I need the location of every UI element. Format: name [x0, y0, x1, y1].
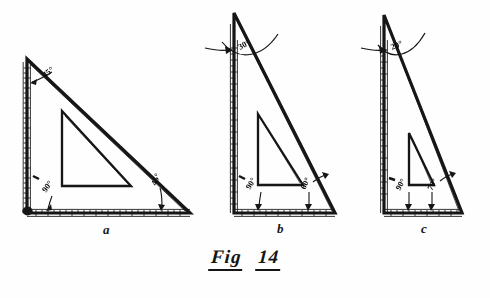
triangle-b-angle-label-2: 60° [298, 176, 312, 191]
triangle-a-corner-mark [22, 207, 32, 216]
panel-c: 20° 90° 70° [361, 15, 462, 216]
triangle-c-bevel-inner [412, 138, 431, 183]
triangle-a-bevel-hypotenuse [31, 65, 185, 211]
panel-a: 45° 90° 45° [22, 59, 190, 216]
triangle-b-tick-left-mid [239, 176, 245, 179]
triangle-b-arrow-30 [225, 46, 233, 54]
triangle-c-arrow-90 [405, 204, 412, 211]
triangle-a-angle-label-1: 90° [39, 179, 54, 194]
triangle-c-angle-label-2: 70° [425, 177, 439, 192]
triangle-a-outer [27, 59, 190, 213]
triangle-b-arrow-60 [305, 204, 312, 211]
triangle-a-arrow-45-top [30, 79, 37, 85]
triangle-a-tick-left [33, 176, 39, 179]
triangle-a-leader-45-right [160, 188, 162, 207]
figure-canvas: 45° 90° 45° [0, 0, 490, 298]
panel-b: 30° 90° 60° [205, 13, 335, 216]
triangle-c-tick-left-mid [389, 178, 395, 180]
triangle-a-arrow-45-right [158, 204, 165, 211]
set-squares-illustration: 45° 90° 45° [0, 0, 490, 298]
triangle-c-arrow-70 [428, 204, 435, 211]
triangle-c-angle-label-0: 20° [389, 38, 404, 52]
triangle-b-arrow-90 [255, 204, 262, 211]
